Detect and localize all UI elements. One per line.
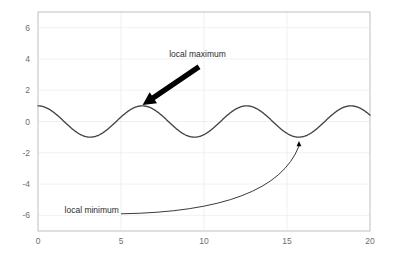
- y-tick-label: 4: [25, 54, 30, 64]
- chart-figure: 6420-2-4-6 05101520 local maximum local …: [0, 0, 394, 256]
- x-tick-label: 20: [365, 236, 375, 246]
- x-axis-tick-labels: 05101520: [36, 236, 375, 246]
- y-tick-label: -2: [22, 148, 30, 158]
- y-tick-label: -6: [22, 210, 30, 220]
- local-minimum-label: local minimum: [65, 205, 119, 215]
- curved-arrow-head-icon: [297, 141, 302, 146]
- x-tick-label: 5: [119, 236, 124, 246]
- curved-arrow-icon: [121, 146, 299, 214]
- y-tick-label: 0: [25, 117, 30, 127]
- x-tick-label: 10: [199, 236, 209, 246]
- annotation-local-minimum: local minimum: [65, 141, 302, 215]
- y-axis-tick-labels: 6420-2-4-6: [22, 23, 30, 221]
- y-tick-label: 6: [25, 23, 30, 33]
- y-tick-label: -4: [22, 179, 30, 189]
- y-tick-label: 2: [25, 85, 30, 95]
- chart-plot-area: 6420-2-4-6 05101520 local maximum local …: [0, 0, 394, 256]
- annotation-local-maximum: local maximum: [143, 49, 226, 105]
- x-tick-label: 0: [36, 236, 41, 246]
- thick-arrow-icon: [143, 65, 201, 105]
- local-maximum-label: local maximum: [169, 49, 226, 59]
- x-tick-label: 15: [282, 236, 292, 246]
